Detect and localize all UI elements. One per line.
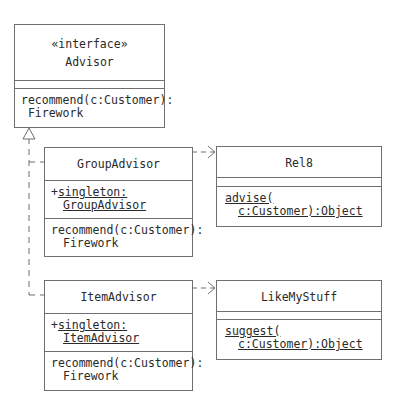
attributes-compartment [217, 311, 381, 319]
class-advisor: «interface» Advisor recommend(c:Customer… [14, 24, 165, 128]
attributes-compartment [217, 177, 381, 186]
class-name: Advisor [15, 55, 164, 69]
operation-return: Firework [63, 236, 118, 250]
operation-return: Firework [63, 369, 118, 383]
stereotype-label: «interface» [15, 37, 164, 51]
attribute-type: GroupAdvisor [63, 198, 146, 212]
class-item-advisor: ItemAdvisor +singleton: ItemAdvisor reco… [44, 280, 193, 391]
attributes-compartment [15, 80, 164, 88]
operation-line: recommend(c:Customer): [51, 356, 203, 370]
operation-line: advise( [225, 191, 273, 205]
operation-return: c:Customer):Object [238, 337, 363, 351]
class-name: ItemAdvisor [45, 290, 192, 304]
class-rel8: Rel8 advise( c:Customer):Object [216, 146, 382, 227]
operations-compartment: recommend(c:Customer): Firework [15, 88, 164, 127]
attributes-compartment: +singleton: GroupAdvisor [45, 180, 192, 218]
operations-compartment: suggest( c:Customer):Object [217, 319, 381, 359]
operations-compartment: recommend(c:Customer): Firework [45, 351, 192, 390]
class-group-advisor: GroupAdvisor +singleton: GroupAdvisor re… [44, 147, 193, 257]
operation-return: Firework [21, 106, 83, 120]
attribute-type: ItemAdvisor [63, 331, 139, 345]
operations-compartment: advise( c:Customer):Object [217, 186, 381, 226]
class-like-my-stuff: LikeMyStuff suggest( c:Customer):Object [216, 280, 382, 360]
attribute-line: +singleton: [51, 318, 127, 332]
class-name: Rel8 [217, 156, 381, 170]
operation-return: c:Customer):Object [238, 204, 363, 218]
class-name: GroupAdvisor [45, 157, 192, 171]
class-name: LikeMyStuff [217, 290, 381, 304]
operation-line: recommend(c:Customer): [21, 93, 173, 107]
operations-compartment: recommend(c:Customer): Firework [45, 218, 192, 256]
attribute-line: +singleton: [51, 185, 127, 199]
operation-line: suggest( [225, 324, 280, 338]
realization-arrowhead-icon [23, 128, 35, 139]
operation-line: recommend(c:Customer): [51, 223, 203, 237]
attributes-compartment: +singleton: ItemAdvisor [45, 313, 192, 351]
